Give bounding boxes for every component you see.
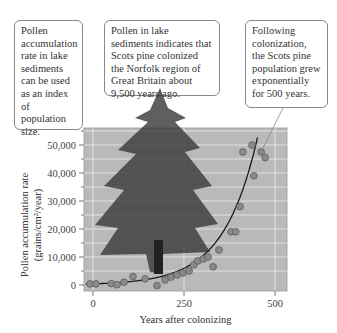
data-point: [249, 142, 256, 149]
pollen-chart: 010,00020,00030,00040,00050,0000250500: [0, 0, 337, 333]
data-point: [121, 279, 128, 286]
data-point: [262, 154, 269, 161]
y-tick-label: 50,000: [47, 140, 76, 151]
x-tick-label: 250: [176, 298, 192, 309]
data-point: [232, 228, 239, 235]
data-point: [180, 270, 187, 277]
y-tick-label: 0: [71, 280, 76, 291]
data-point: [186, 268, 193, 275]
y-tick-label: 30,000: [47, 196, 76, 207]
x-tick-label: 0: [90, 298, 95, 309]
data-point: [210, 263, 217, 270]
data-point: [250, 172, 257, 179]
pine-tree-illustration: [95, 88, 218, 274]
data-point: [114, 281, 121, 288]
tree-trunk: [154, 240, 163, 274]
data-point: [205, 254, 212, 261]
data-point: [216, 247, 223, 254]
data-point: [240, 149, 247, 156]
data-point: [237, 203, 244, 210]
data-point: [142, 275, 149, 282]
data-point: [130, 273, 137, 280]
data-point: [93, 280, 100, 287]
x-tick-label: 500: [267, 298, 283, 309]
y-tick-label: 20,000: [47, 224, 76, 235]
y-tick-label: 40,000: [47, 168, 76, 179]
data-point: [154, 282, 161, 289]
data-point: [167, 274, 174, 281]
y-tick-label: 10,000: [47, 252, 76, 263]
